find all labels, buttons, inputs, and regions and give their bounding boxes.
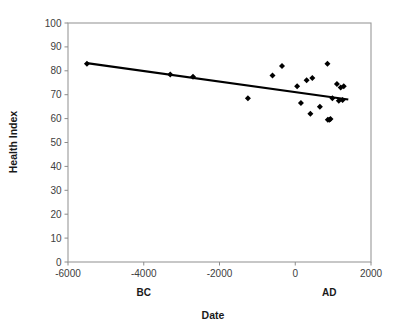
- y-tick-label: 70: [50, 89, 62, 100]
- x-tick-label: -4000: [131, 268, 157, 279]
- y-tick-label: 20: [50, 209, 62, 220]
- x-tick-label: -6000: [55, 268, 81, 279]
- plot-area-border: [68, 23, 371, 262]
- era-label-ad: AD: [322, 287, 336, 298]
- y-tick-label: 100: [45, 18, 62, 29]
- chart-canvas: 0102030405060708090100 -6000-4000-200002…: [0, 0, 407, 325]
- x-tick-label: 2000: [360, 268, 383, 279]
- y-tick-label: 90: [50, 41, 62, 52]
- health-index-scatter-chart: 0102030405060708090100 -6000-4000-200002…: [0, 0, 407, 325]
- y-tick-label: 0: [56, 257, 62, 268]
- x-tick-label: -2000: [207, 268, 233, 279]
- x-axis-title: Date: [202, 309, 225, 321]
- y-axis-title: Health Index: [7, 111, 19, 174]
- y-tick-label: 80: [50, 65, 62, 76]
- x-tick-label: 0: [292, 268, 298, 279]
- y-tick-label: 10: [50, 233, 62, 244]
- y-tick-label: 30: [50, 185, 62, 196]
- y-tick-label: 40: [50, 161, 62, 172]
- era-label-bc: BC: [137, 287, 151, 298]
- y-tick-label: 60: [50, 113, 62, 124]
- y-tick-label: 50: [50, 137, 62, 148]
